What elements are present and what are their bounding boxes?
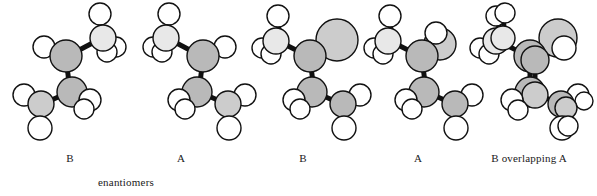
molecule-model-1 — [8, 0, 140, 145]
molecular-models-figure: B A B A B overlapping A enantiomers — [0, 0, 597, 196]
model-2-label: A — [177, 152, 185, 164]
enantiomers-annotation: enantiomers — [98, 176, 154, 188]
model-3-label: B — [299, 152, 307, 164]
model-4-label: A — [414, 152, 422, 164]
molecule-model-5 — [472, 0, 597, 145]
molecule-model-2 — [130, 0, 262, 145]
model-5-label: B overlapping A — [491, 152, 567, 164]
model-1-label: B — [66, 152, 74, 164]
